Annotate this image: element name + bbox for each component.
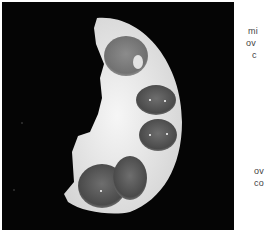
- caption-line: ov: [246, 37, 258, 49]
- cyst-middle-1: [136, 85, 176, 115]
- caption-top: mi ov c: [248, 25, 258, 61]
- caption-line: ov: [254, 165, 264, 177]
- caption-line: co: [254, 177, 264, 189]
- cyst-middle-2: [139, 119, 177, 151]
- caption-bottom: ov co: [254, 165, 264, 189]
- caption-line: c: [252, 49, 258, 61]
- specimen-photo: [2, 2, 234, 230]
- caption-line: mi: [248, 25, 258, 37]
- cyst-upper: [104, 36, 148, 76]
- cyst-lower-right: [113, 156, 147, 200]
- specimen-illustration: [2, 2, 234, 230]
